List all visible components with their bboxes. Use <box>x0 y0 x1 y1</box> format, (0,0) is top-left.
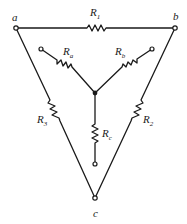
node-label-b: b <box>173 11 179 22</box>
label-rb-base: R <box>115 45 122 57</box>
resistor-r3 <box>16 28 95 198</box>
label-ra: Ra <box>63 46 73 60</box>
wye-center-junction <box>93 91 98 96</box>
label-rc: Rc <box>102 128 112 142</box>
node-label-c: c <box>93 208 98 219</box>
label-rc-base: R <box>102 127 109 139</box>
terminal-wye-b <box>150 47 154 51</box>
circuit-drawing <box>0 0 187 224</box>
label-r3: R3 <box>37 114 47 128</box>
label-r3-base: R <box>37 113 44 125</box>
label-ra-sub: a <box>70 52 74 60</box>
terminal-wye-c <box>93 162 97 166</box>
label-r1: R1 <box>90 7 100 21</box>
terminal-wye-a <box>39 47 43 51</box>
delta-wye-diagram: a b c R1 R2 R3 Ra Rb Rc <box>0 0 187 224</box>
node-label-a: a <box>12 12 18 23</box>
label-r2-sub: 2 <box>150 120 154 128</box>
label-r2: R2 <box>143 114 153 128</box>
label-r1-base: R <box>90 6 97 18</box>
label-rb-sub: b <box>122 52 126 60</box>
resistor-r1 <box>16 25 175 31</box>
label-r2-base: R <box>143 113 150 125</box>
resistor-r2 <box>95 28 175 198</box>
label-rc-sub: c <box>109 134 112 142</box>
label-rb: Rb <box>115 46 125 60</box>
terminal-b <box>173 26 177 30</box>
label-r1-sub: 1 <box>97 13 101 21</box>
label-r3-sub: 3 <box>44 120 48 128</box>
label-ra-base: R <box>63 45 70 57</box>
resistor-rc <box>92 93 98 164</box>
terminal-c <box>93 196 97 200</box>
terminal-a <box>14 26 18 30</box>
